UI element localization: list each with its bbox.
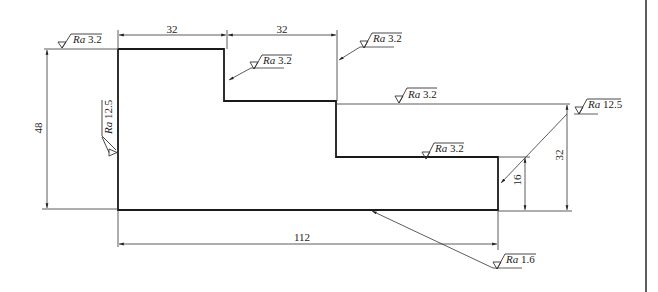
dimension-text: 112 <box>294 231 310 243</box>
roughness-symbol: Ra 12.5 <box>102 99 117 156</box>
roughness-symbol: Ra 3.2 <box>229 54 292 80</box>
roughness-symbol: Ra 3.2 <box>395 88 437 103</box>
svg-text:Ra 3.2: Ra 3.2 <box>434 142 464 154</box>
svg-text:Ra 3.2: Ra 3.2 <box>372 32 402 44</box>
roughness-symbol: Ra 12.5 <box>501 98 623 183</box>
svg-text:Ra 12.5: Ra 12.5 <box>587 98 623 110</box>
roughness-symbol: Ra 3.2 <box>58 33 102 48</box>
dimension-text: 32 <box>277 23 288 35</box>
svg-text:Ra 12.5: Ra 12.5 <box>102 99 114 135</box>
svg-text:Ra 1.6: Ra 1.6 <box>505 253 535 265</box>
dimension-text: 16 <box>511 174 523 186</box>
technical-drawing: 32 32 48 32 16 112 Ra 3.2 Ra 3.2 Ra 3.2 … <box>0 0 658 292</box>
svg-text:Ra 3.2: Ra 3.2 <box>262 54 292 66</box>
svg-text:Ra 3.2: Ra 3.2 <box>72 33 102 45</box>
dimension-text: 48 <box>32 122 44 134</box>
dimension-text: 32 <box>167 23 178 35</box>
roughness-symbol: Ra 3.2 <box>339 32 402 60</box>
roughness-symbol: Ra 1.6 <box>372 211 536 269</box>
part-outline <box>118 49 498 210</box>
svg-text:Ra 3.2: Ra 3.2 <box>407 88 437 100</box>
dimension-text: 32 <box>553 150 565 161</box>
